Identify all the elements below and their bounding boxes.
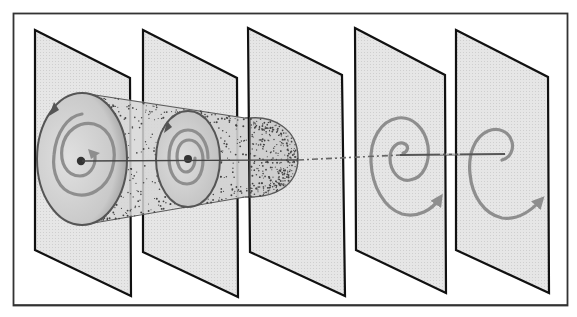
stipple-dot [239,142,240,143]
stipple-dot [258,182,260,184]
stipple-dot [128,145,129,146]
stipple-dot [283,168,284,169]
stipple-dot [125,212,126,213]
stipple-dot [259,139,260,140]
stipple-dot [232,190,233,191]
stipple-dot [287,139,288,140]
stipple-dot [284,180,286,182]
stipple-dot [291,165,293,167]
stipple-dot [283,173,285,175]
stipple-dot [251,170,252,171]
stipple-dot [249,153,251,155]
stipple-dot [241,192,243,194]
stipple-dot [269,190,270,191]
stipple-dot [216,121,218,123]
stipple-dot [282,139,284,141]
stipple-dot [266,133,267,134]
stipple-dot [261,128,262,129]
stipple-dot [127,192,128,193]
stipple-dot [114,214,115,215]
stipple-dot [273,189,274,190]
stipple-dot [150,112,151,113]
diagram-svg [0,0,577,317]
stipple-dot [103,98,105,100]
stipple-dot [246,188,247,189]
stipple-dot [166,111,168,113]
stipple-dot [282,174,284,176]
stipple-dot [271,167,272,168]
stipple-dot [256,143,257,144]
stipple-dot [262,175,263,176]
stipple-dot [152,133,154,135]
stipple-dot [226,143,228,145]
stipple-dot [136,109,137,110]
stipple-dot [253,185,255,187]
stipple-dot [228,148,229,149]
stipple-dot [246,190,248,192]
stipple-dot [223,143,225,145]
stipple-dot [141,123,143,125]
stipple-dot [230,194,232,196]
stipple-dot [286,174,288,176]
stipple-dot [256,125,257,126]
stipple-dot [286,142,288,144]
stipple-dot [284,154,285,155]
stipple-dot [148,118,149,119]
stipple-dot [259,165,260,166]
stipple-dot [277,130,279,132]
stipple-dot [283,132,285,134]
stipple-dot [146,144,147,145]
stipple-dot [287,157,288,158]
stipple-dot [280,133,282,135]
stipple-dot [235,124,237,126]
stipple-dot [112,105,114,107]
stipple-dot [222,130,224,132]
stipple-dot [253,132,255,134]
stipple-dot [269,184,271,186]
stipple-dot [287,167,288,168]
stipple-dot [229,116,230,117]
stipple-dot [229,121,231,123]
stipple-dot [274,184,276,186]
stipple-dot [254,161,255,162]
stipple-dot [291,137,293,139]
stipple-dot [278,172,280,174]
stipple-dot [265,161,267,163]
stipple-dot [269,134,270,135]
stipple-dot [269,130,270,131]
stipple-dot [288,175,290,177]
stipple-dot [272,162,274,164]
stipple-dot [138,120,139,121]
stipple-dot [276,131,278,133]
stipple-dot [288,153,290,155]
stipple-dot [258,168,259,169]
stipple-dot [287,149,289,151]
stipple-dot [289,144,290,145]
stipple-dot [250,192,252,194]
stipple-dot [163,200,165,202]
stipple-dot [291,170,292,171]
stipple-dot [120,196,122,198]
stipple-dot [143,148,145,150]
stipple-dot [141,117,142,118]
stipple-dot [281,142,283,144]
stipple-dot [273,183,275,185]
stipple-dot [250,185,251,186]
stipple-dot [221,118,223,120]
stipple-dot [279,162,280,163]
stipple-dot [115,218,117,220]
stipple-dot [154,147,155,148]
stipple-dot [269,187,271,189]
stipple-dot [124,119,125,120]
stipple-dot [220,191,222,193]
stipple-dot [266,150,267,151]
stipple-dot [121,208,122,209]
stipple-dot [253,136,254,137]
stipple-dot [230,151,231,152]
stipple-dot [286,145,288,147]
stipple-dot [163,208,165,210]
stipple-dot [262,173,264,175]
stipple-dot [148,114,149,115]
stipple-dot [261,134,262,135]
plane-4 [355,28,446,293]
